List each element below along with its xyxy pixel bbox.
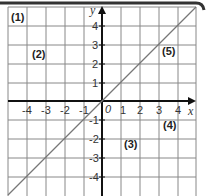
y-tick: -3 bbox=[89, 152, 99, 164]
x-tick: -1 bbox=[79, 104, 89, 116]
x-tick: -2 bbox=[60, 104, 70, 116]
x-tick: 2 bbox=[137, 104, 143, 116]
x-tick: 3 bbox=[156, 104, 162, 116]
origin-label: 0 bbox=[105, 103, 112, 115]
x-axis-label: x bbox=[187, 104, 194, 118]
y-axis-label: y bbox=[89, 3, 96, 17]
x-tick: -4 bbox=[22, 104, 32, 116]
y-tick: 1 bbox=[92, 77, 98, 89]
region-label-4: (4) bbox=[163, 119, 177, 131]
x-tick: 4 bbox=[175, 104, 181, 116]
region-label-2: (2) bbox=[32, 48, 46, 60]
region-label-5: (5) bbox=[162, 45, 176, 57]
y-tick: 3 bbox=[92, 39, 98, 51]
y-tick: -2 bbox=[89, 133, 99, 145]
y-tick: 2 bbox=[92, 58, 98, 70]
region-label-3: (3) bbox=[124, 138, 138, 150]
y-tick: 4 bbox=[92, 20, 98, 32]
region-label-1: (1) bbox=[11, 11, 25, 23]
coordinate-plane: y x 0 -4 -3 -2 -1 1 2 3 4 4 3 2 1 -1 -2 … bbox=[0, 0, 206, 196]
y-tick: -1 bbox=[89, 114, 99, 126]
x-tick: 1 bbox=[120, 104, 126, 116]
x-tick: -3 bbox=[41, 104, 51, 116]
y-tick: -4 bbox=[89, 171, 99, 183]
